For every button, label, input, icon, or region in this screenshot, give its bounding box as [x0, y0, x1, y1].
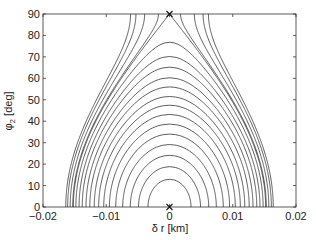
y-tick-label: 20	[28, 158, 40, 170]
x-tick-label: 0.01	[222, 210, 243, 222]
y-tick-label: 50	[28, 94, 40, 106]
y-tick-label: 10	[28, 180, 40, 192]
point-markers	[167, 11, 173, 210]
contour-lines	[66, 14, 273, 207]
contour-line	[104, 114, 236, 207]
y-tick-label: 0	[34, 201, 40, 213]
x-tick-label: 0	[166, 210, 172, 222]
contour-line	[109, 124, 229, 207]
x-tick-label: −0.01	[92, 210, 120, 222]
y-tick-label: 70	[28, 51, 40, 63]
x-tick-label: 0.02	[285, 210, 306, 222]
axis-ticks	[43, 14, 296, 207]
contour-line	[139, 167, 201, 207]
contour-line	[73, 14, 159, 207]
contour-line	[181, 14, 267, 207]
y-axis-label-unit: [deg]	[2, 91, 14, 119]
y-tick-label: 60	[28, 72, 40, 84]
y-axis-label-main: φ	[2, 123, 14, 130]
contour-line	[123, 145, 217, 207]
contour-line	[82, 67, 257, 207]
x-tick-labels: −0.02−0.0100.010.02	[29, 210, 307, 222]
plot-frame	[43, 14, 296, 207]
contour-chart: −0.02−0.0100.010.02 0102030405060708090 …	[0, 0, 316, 240]
y-tick-label: 90	[28, 8, 40, 20]
contour-line	[130, 155, 208, 207]
y-axis-label: φ2 [deg]	[2, 91, 17, 130]
x-axis-label: δ r [km]	[152, 222, 189, 234]
contour-line	[94, 97, 245, 208]
y-tick-label: 40	[28, 115, 40, 127]
y-tick-label: 80	[28, 29, 40, 41]
y-tick-labels: 0102030405060708090	[28, 8, 40, 213]
y-tick-label: 30	[28, 137, 40, 149]
contour-line	[148, 179, 191, 207]
